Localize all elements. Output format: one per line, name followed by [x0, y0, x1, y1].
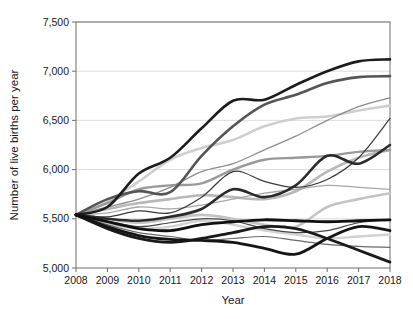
x-axis-title: Year: [221, 294, 244, 306]
x-tick-group: 2008200920102011201220132014201520162017…: [64, 268, 402, 286]
y-axis-title: Number of live births per year: [8, 69, 20, 220]
chart-container: 2008200920102011201220132014201520162017…: [0, 0, 413, 319]
y-axis-tick-label: 5,500: [43, 212, 69, 224]
x-axis-tick-label: 2016: [316, 274, 340, 286]
y-axis-tick-label: 6,500: [43, 114, 69, 126]
x-axis-tick-label: 2017: [347, 274, 371, 286]
y-axis-tick-label: 5,000: [43, 262, 69, 274]
x-axis-tick-label: 2013: [221, 274, 245, 286]
x-axis-tick-label: 2011: [159, 274, 182, 286]
series-line: [76, 59, 390, 214]
x-axis-tick-label: 2008: [64, 274, 88, 286]
y-tick-group: 5,0005,5006,0006,5007,0007,500: [43, 16, 76, 274]
x-axis-tick-label: 2015: [284, 274, 308, 286]
y-axis-tick-label: 7,500: [43, 16, 69, 28]
line-chart: 2008200920102011201220132014201520162017…: [0, 0, 413, 319]
x-axis-tick-label: 2010: [127, 274, 151, 286]
series-group: [76, 59, 390, 262]
x-axis-tick-label: 2014: [253, 274, 277, 286]
x-axis-tick-label: 2018: [378, 274, 402, 286]
y-axis-tick-label: 7,000: [43, 65, 69, 77]
y-axis-tick-label: 6,000: [43, 163, 69, 175]
x-axis-tick-label: 2009: [96, 274, 120, 286]
x-axis-tick-label: 2012: [190, 274, 214, 286]
series-line: [76, 76, 390, 215]
